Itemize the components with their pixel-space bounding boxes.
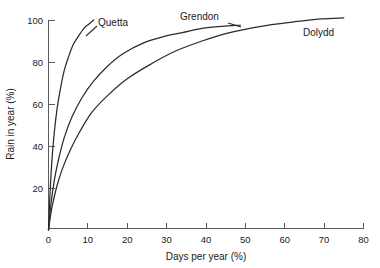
y-axis-tick-labels: 20406080100 <box>27 15 43 194</box>
x-tick-label-20: 20 <box>122 234 133 245</box>
x-tick-label-60: 60 <box>279 234 290 245</box>
chart-series-curves <box>49 18 344 230</box>
series-label-dolydd: Dolydd <box>303 27 334 38</box>
curve-dolydd <box>49 18 344 230</box>
x-axis-tick-labels: 01020304050607080 <box>46 234 369 245</box>
curve-grendon <box>49 25 241 230</box>
y-tick-label-60: 60 <box>32 99 43 110</box>
y-axis-title: Rain in year (%) <box>5 88 16 160</box>
x-tick-label-80: 80 <box>358 234 369 245</box>
chart-svg: 01020304050607080 20406080100 Days per y… <box>0 0 380 268</box>
x-tick-label-10: 10 <box>83 234 94 245</box>
series-label-quetta: Quetta <box>98 17 128 28</box>
rainfall-duration-chart: 01020304050607080 20406080100 Days per y… <box>0 0 380 268</box>
y-tick-label-40: 40 <box>32 141 43 152</box>
x-axis-title: Days per year (%) <box>166 251 247 262</box>
y-tick-label-20: 20 <box>32 183 43 194</box>
x-tick-label-0: 0 <box>46 234 51 245</box>
chart-axes <box>49 20 364 229</box>
x-tick-label-70: 70 <box>319 234 330 245</box>
series-label-grendon: Grendon <box>180 11 219 22</box>
x-tick-label-30: 30 <box>161 234 172 245</box>
curve-quetta <box>49 20 94 230</box>
x-axis-ticks <box>49 223 364 229</box>
x-tick-label-40: 40 <box>201 234 212 245</box>
quetta-leader-line <box>86 26 97 36</box>
y-tick-label-80: 80 <box>32 57 43 68</box>
x-tick-label-50: 50 <box>240 234 251 245</box>
y-tick-label-100: 100 <box>27 15 43 26</box>
